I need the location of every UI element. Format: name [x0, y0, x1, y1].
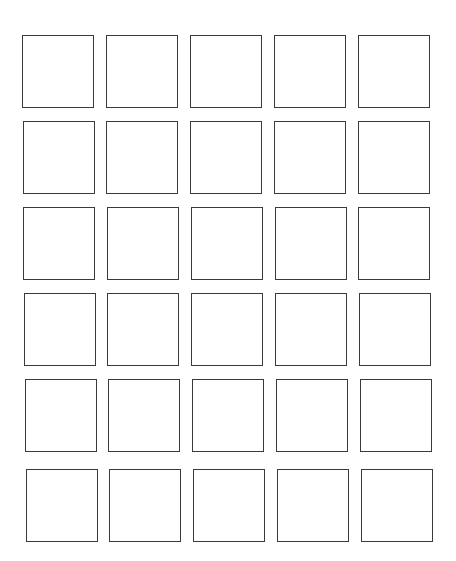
- grid-box-r5-c3: [192, 379, 264, 452]
- grid-box-r2-c5: [358, 121, 430, 194]
- grid-box-r4-c5: [359, 293, 431, 366]
- grid-box-r5-c5: [360, 379, 432, 452]
- grid-box-r6-c1: [26, 469, 98, 542]
- grid-box-r4-c2: [107, 293, 179, 366]
- grid-box-r3-c2: [107, 207, 179, 280]
- grid-box-r6-c3: [193, 469, 265, 542]
- grid-box-r3-c1: [23, 207, 95, 280]
- worksheet-page: [0, 0, 456, 561]
- grid-box-r6-c4: [277, 469, 349, 542]
- grid-box-r5-c2: [108, 379, 180, 452]
- grid-box-r1-c5: [358, 35, 430, 108]
- grid-box-r5-c4: [276, 379, 348, 452]
- grid-box-r3-c4: [275, 207, 347, 280]
- grid-box-r2-c4: [274, 121, 346, 194]
- grid-box-r3-c3: [191, 207, 263, 280]
- grid-box-r2-c3: [190, 121, 262, 194]
- grid-box-r1-c2: [106, 35, 178, 108]
- grid-box-r4-c4: [275, 293, 347, 366]
- grid-box-r3-c5: [358, 207, 430, 280]
- grid-box-r1-c1: [22, 35, 94, 108]
- grid-box-r4-c3: [191, 293, 263, 366]
- grid-box-r6-c2: [109, 469, 181, 542]
- grid-box-r4-c1: [24, 293, 96, 366]
- grid-box-r2-c2: [106, 121, 178, 194]
- grid-box-r1-c3: [190, 35, 262, 108]
- grid-box-r2-c1: [23, 121, 95, 194]
- grid-box-r5-c1: [25, 379, 97, 452]
- grid-box-r1-c4: [274, 35, 346, 108]
- grid-box-r6-c5: [361, 469, 433, 542]
